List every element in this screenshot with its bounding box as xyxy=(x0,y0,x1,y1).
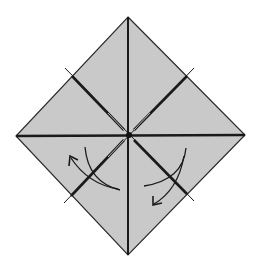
origami-diagram xyxy=(0,0,257,273)
diagram-canvas xyxy=(0,0,257,273)
center-point xyxy=(126,132,132,138)
